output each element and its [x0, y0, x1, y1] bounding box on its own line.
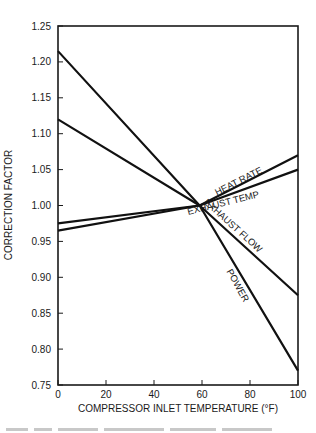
- y-tick-label: 1.15: [32, 92, 52, 103]
- series-line-exhaust-temp: [58, 170, 298, 231]
- y-tick-label: 1.20: [32, 56, 52, 67]
- x-tick-label: 20: [100, 389, 112, 400]
- x-tick-label: 0: [55, 389, 61, 400]
- plot-frame: [58, 26, 298, 385]
- y-tick-label: 0.85: [32, 308, 52, 319]
- figure-caption: [6, 420, 306, 426]
- x-tick-label: 100: [290, 389, 307, 400]
- series-lines: [58, 51, 298, 371]
- series-line-heat-rate: [58, 155, 298, 223]
- y-axis-title: CORRECTION FACTOR: [3, 150, 14, 260]
- x-tick-label: 60: [196, 389, 208, 400]
- y-tick-label: 0.80: [32, 344, 52, 355]
- y-tick-label: 1.00: [32, 200, 52, 211]
- plot-border: [58, 26, 298, 385]
- y-tick-label: 0.95: [32, 236, 52, 247]
- x-axis-ticks: 020406080100: [55, 380, 307, 400]
- y-tick-label: 1.10: [32, 128, 52, 139]
- y-tick-label: 1.05: [32, 164, 52, 175]
- y-tick-label: 0.90: [32, 272, 52, 283]
- y-tick-label: 0.75: [32, 380, 52, 391]
- x-tick-label: 40: [148, 389, 160, 400]
- series-line-power: [58, 51, 298, 371]
- correction-factor-chart: 0.750.800.850.900.951.001.051.101.151.20…: [0, 0, 316, 433]
- y-tick-label: 1.25: [32, 21, 52, 32]
- x-tick-label: 80: [244, 389, 256, 400]
- x-axis-title: COMPRESSOR INLET TEMPERATURE (°F): [78, 403, 278, 414]
